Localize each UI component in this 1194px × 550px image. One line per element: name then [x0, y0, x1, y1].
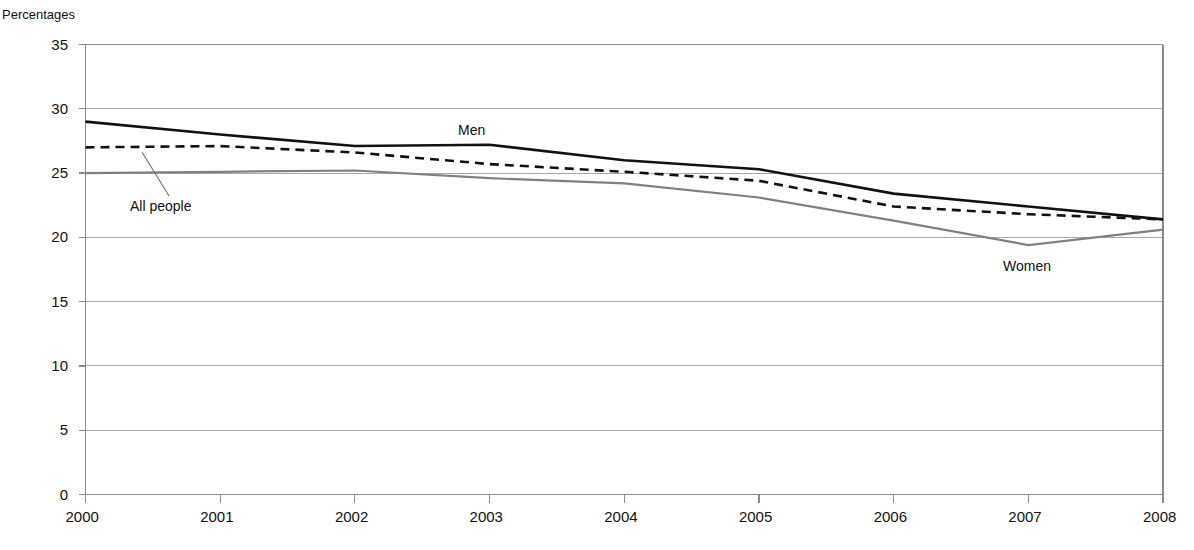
data-series-group [86, 122, 1164, 245]
x-axis-tick-label: 2008 [1143, 509, 1176, 524]
axis-ticks-group [79, 45, 1164, 503]
series-annotation-men: Men [458, 122, 485, 138]
chart-container: Percentages 05101520253035 2000200120022… [0, 0, 1194, 550]
x-axis-tick-label: 2003 [470, 509, 503, 524]
series-annotation-women: Women [1003, 258, 1051, 274]
y-axis-tick-label: 10 [12, 358, 68, 373]
series-line-women [86, 171, 1164, 246]
x-axis-tick-label: 2007 [1008, 509, 1041, 524]
x-axis-tick-label: 2002 [335, 509, 368, 524]
chart-plot-area [0, 0, 1194, 550]
y-axis-tick-label: 15 [12, 294, 68, 309]
y-axis-tick-label: 20 [12, 229, 68, 244]
y-axis-tick-label: 30 [12, 101, 68, 116]
series-annotation-all-people: All people [130, 198, 192, 214]
x-axis-tick-label: 2000 [66, 509, 99, 524]
x-axis-tick-label: 2001 [200, 509, 233, 524]
gridlines-group [86, 45, 1164, 495]
x-axis-tick-label: 2004 [604, 509, 637, 524]
y-axis-tick-label: 25 [12, 165, 68, 180]
x-axis-tick-label: 2005 [739, 509, 772, 524]
leader-line-all-people [142, 152, 169, 196]
y-axis-tick-label: 35 [12, 37, 68, 52]
annotation-leader-lines [142, 152, 169, 196]
y-axis-tick-label: 5 [12, 422, 68, 437]
plot-frame [86, 45, 1164, 495]
y-axis-tick-label: 0 [12, 487, 68, 502]
x-axis-tick-label: 2006 [874, 509, 907, 524]
